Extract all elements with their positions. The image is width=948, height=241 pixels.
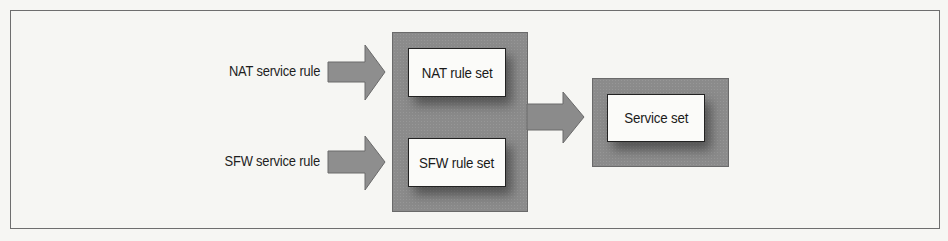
nat-rule-set-box: NAT rule set — [408, 48, 506, 97]
sfw-input-arrow-icon — [327, 135, 387, 193]
sfw-service-rule-label: SFW service rule — [225, 152, 320, 169]
sfw-rule-set-label: SFW rule set — [420, 154, 495, 172]
output-arrow-icon — [527, 91, 587, 145]
nat-input-arrow-icon — [327, 44, 387, 102]
nat-rule-set-label: NAT rule set — [422, 64, 493, 82]
service-set-label: Service set — [624, 109, 688, 127]
service-set-box: Service set — [607, 94, 705, 142]
nat-service-rule-label: NAT service rule — [229, 62, 320, 79]
sfw-rule-set-box: SFW rule set — [408, 138, 506, 187]
